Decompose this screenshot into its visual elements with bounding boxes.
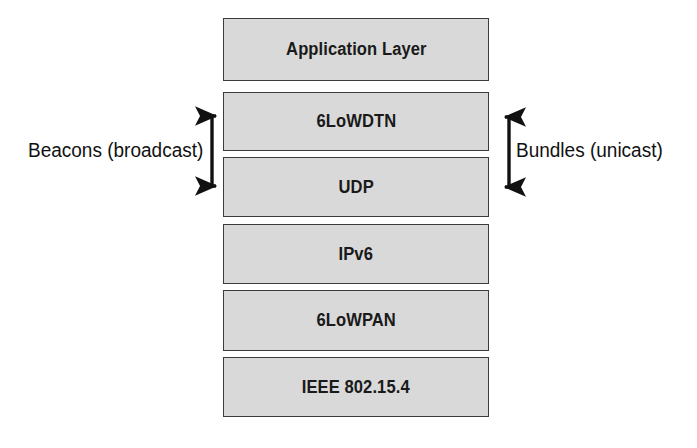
layer-box-6lowdtn: 6LoWDTN (223, 92, 489, 151)
layer-label: 6LoWDTN (316, 111, 396, 132)
bracket-arrow-right-icon (212, 116, 216, 186)
layer-label: 6LoWPAN (316, 310, 395, 331)
layer-box-ipv6: IPv6 (223, 224, 489, 284)
protocol-layer-stack: Application Layer 6LoWDTN UDP IPv6 6LoWP… (223, 18, 489, 417)
diagram-canvas: Application Layer 6LoWDTN UDP IPv6 6LoWP… (0, 0, 697, 448)
layer-label: IEEE 802.15.4 (302, 377, 410, 398)
layer-label: Application Layer (286, 39, 427, 60)
bracket-arrow-left-icon (505, 117, 509, 187)
layer-box-6lowpan: 6LoWPAN (223, 290, 489, 351)
layer-box-udp: UDP (223, 157, 489, 217)
layer-label: UDP (338, 177, 373, 198)
layer-label: IPv6 (339, 244, 373, 265)
annotation-label-beacons: Beacons (broadcast) (28, 139, 203, 162)
annotation-label-bundles: Bundles (unicast) (516, 139, 663, 162)
layer-box-application: Application Layer (223, 18, 489, 81)
layer-box-ieee802154: IEEE 802.15.4 (223, 357, 489, 417)
